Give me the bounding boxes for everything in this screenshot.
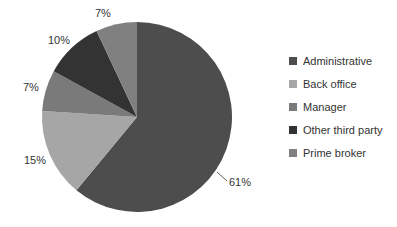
data-label-other-third-party: 10% [48,34,70,46]
legend-item-administrative: Administrative [289,49,382,72]
legend-swatch [289,149,297,157]
data-label-prime-broker: 7% [95,7,111,19]
legend-item-manager: Manager [289,95,382,118]
data-label-manager: 7% [23,81,39,93]
legend-item-prime-broker: Prime broker [289,142,382,165]
legend-swatch [289,103,297,111]
legend-label: Other third party [303,124,382,136]
legend: Administrative Back office Manager Other… [289,49,382,165]
data-label-administrative: 61% [229,176,251,188]
legend-swatch [289,57,297,65]
legend-label: Prime broker [303,147,366,159]
legend-label: Back office [303,78,357,90]
legend-swatch [289,80,297,88]
legend-item-back-office: Back office [289,72,382,95]
leader-line [217,172,227,181]
legend-label: Manager [303,101,346,113]
legend-label: Administrative [303,55,372,67]
legend-swatch [289,126,297,134]
data-label-back-office: 15% [24,154,46,166]
legend-item-other-third-party: Other third party [289,119,382,142]
